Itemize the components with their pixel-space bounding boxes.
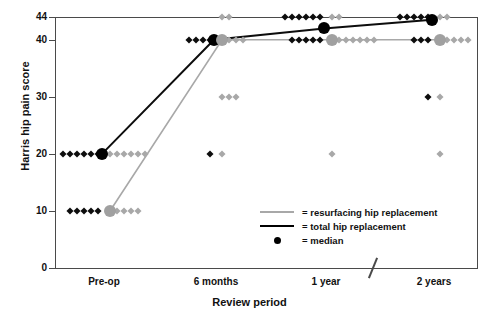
data-point-diamond [316,36,323,43]
y-tick-label: 44 [5,12,47,22]
data-point-diamond [66,207,73,214]
data-point-diamond [73,150,80,157]
black-line-icon [258,225,296,227]
data-point-diamond [281,13,288,20]
median-marker [326,34,338,46]
data-point-diamond [295,13,302,20]
y-axis-title: Harris hip pain score [19,41,31,191]
data-point-diamond [288,36,295,43]
data-point-diamond [59,150,66,157]
data-point-diamond [225,13,232,20]
median-marker [96,148,108,160]
axis-bottom [55,268,478,269]
data-point-diamond [302,13,309,20]
data-point-diamond [436,150,443,157]
x-axis-title: Review period [0,296,499,308]
median-trend-line [110,40,440,211]
data-point-diamond [417,36,424,43]
data-point-diamond [218,150,225,157]
data-point-diamond [87,207,94,214]
gray-line-icon [258,211,296,213]
data-point-diamond [410,13,417,20]
data-point-diamond [141,150,148,157]
data-point-diamond [73,207,80,214]
x-tick-label: 1 year [312,276,341,287]
data-point-diamond [316,13,323,20]
data-point-diamond [396,13,403,20]
data-point-diamond [192,36,199,43]
median-marker [104,205,116,217]
median-trend-line [102,20,432,154]
data-point-diamond [185,36,192,43]
data-point-diamond [288,13,295,20]
legend-label-median: = median [302,235,343,246]
data-point-diamond [309,36,316,43]
x-tick-label: 2 years [417,276,451,287]
chart-container: 01020304044 Pre-op6 months1 year2 years … [0,0,499,318]
axis-right [477,17,478,268]
data-point-diamond [239,36,246,43]
data-point-diamond [417,13,424,20]
median-marker [426,14,438,26]
legend-item-total: = total hip replacement [258,219,473,233]
data-point-diamond [328,150,335,157]
x-tick-label: Pre-op [88,276,120,287]
median-dot-icon [258,237,296,244]
x-tick-label: 6 months [194,276,238,287]
legend-item-resurfacing: = resurfacing hip replacement [258,205,473,219]
data-point-diamond [232,93,239,100]
median-marker [216,34,228,46]
legend-label-resurfacing: = resurfacing hip replacement [302,207,437,218]
data-point-diamond [80,207,87,214]
data-point-diamond [410,36,417,43]
data-point-diamond [80,150,87,157]
data-point-diamond [309,13,316,20]
data-point-diamond [424,36,431,43]
data-point-diamond [424,93,431,100]
data-point-diamond [443,13,450,20]
chart-legend: = resurfacing hip replacement = total hi… [258,205,473,247]
data-point-diamond [206,150,213,157]
axis-left [55,17,56,268]
data-point-diamond [134,207,141,214]
y-tick-label: 10 [5,206,47,216]
median-marker [318,22,330,34]
data-point-diamond [302,36,309,43]
data-point-diamond [87,150,94,157]
data-point-diamond [335,13,342,20]
legend-item-median: = median [258,233,473,247]
data-point-diamond [94,207,101,214]
data-point-diamond [295,36,302,43]
y-tick-label: 0 [5,263,47,273]
series-lines-layer [0,0,499,318]
data-point-diamond [403,13,410,20]
median-marker [434,34,446,46]
data-point-diamond [370,36,377,43]
data-point-diamond [436,93,443,100]
data-point-diamond [464,36,471,43]
legend-label-total: = total hip replacement [302,221,406,232]
data-point-diamond [199,36,206,43]
data-point-diamond [66,150,73,157]
